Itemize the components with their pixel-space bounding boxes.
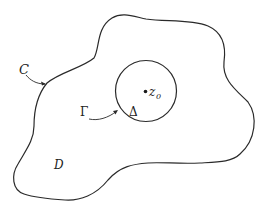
label-z-subscript: 0 [156,92,161,101]
arrow-gamma [89,111,117,120]
label-z: z [148,85,156,99]
label-d: D [53,158,64,172]
label-gamma: Γ [80,105,88,119]
label-c: C [19,62,29,77]
label-delta: Δ [129,105,138,119]
diagram-canvas: C Γ Δ z 0 D [0,0,271,211]
diagram-figure: C Γ Δ z 0 D [0,0,271,211]
point-z0-dot [144,90,148,94]
